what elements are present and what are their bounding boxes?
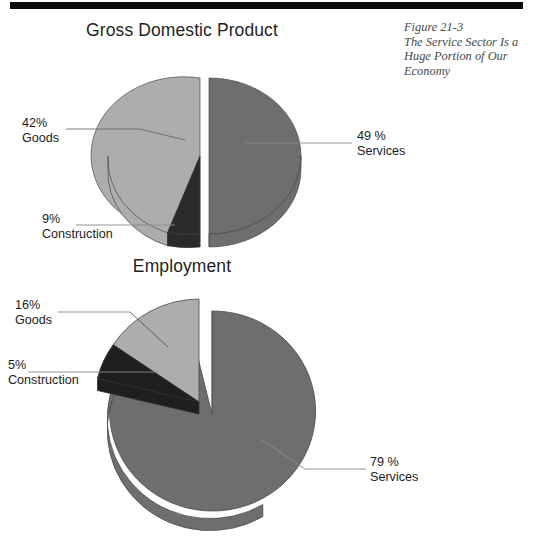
caption-line-3: Huge Portion of Our <box>404 49 537 64</box>
label-goods-gdp-name: Goods <box>22 131 59 146</box>
figure-page: Figure 21-3 The Service Sector Is a Huge… <box>0 0 537 537</box>
slice-services-gdp <box>209 78 301 247</box>
label-services-gdp: 49 % Services <box>357 129 405 160</box>
label-services-gdp-pct: 49 % <box>357 129 405 144</box>
caption-line-1: Figure 21-3 <box>404 20 537 35</box>
label-construction-gdp-pct: 9% <box>42 212 113 227</box>
label-services-employment-name: Services <box>370 470 418 485</box>
label-construction-gdp: 9% Construction <box>42 212 113 243</box>
label-goods-employment: 16% Goods <box>15 298 52 329</box>
label-goods-gdp: 42% Goods <box>22 116 59 147</box>
label-goods-employment-pct: 16% <box>15 298 52 313</box>
header-rule <box>10 2 523 9</box>
label-construction-employment: 5% Construction <box>8 358 79 389</box>
label-construction-gdp-name: Construction <box>42 227 113 242</box>
label-services-gdp-name: Services <box>357 144 405 159</box>
figure-caption: Figure 21-3 The Service Sector Is a Huge… <box>404 20 537 78</box>
pie-chart-employment <box>0 254 400 537</box>
caption-line-4: Economy <box>404 64 537 79</box>
label-services-employment: 79 % Services <box>370 455 418 486</box>
label-services-employment-pct: 79 % <box>370 455 418 470</box>
caption-line-2: The Service Sector Is a <box>404 35 537 50</box>
chart-gross-domestic-product: Gross Domestic Product <box>0 16 400 254</box>
label-construction-employment-name: Construction <box>8 373 79 388</box>
label-goods-gdp-pct: 42% <box>22 116 59 131</box>
label-goods-employment-name: Goods <box>15 313 52 328</box>
label-construction-employment-pct: 5% <box>8 358 79 373</box>
chart-employment: Employment <box>0 254 400 537</box>
